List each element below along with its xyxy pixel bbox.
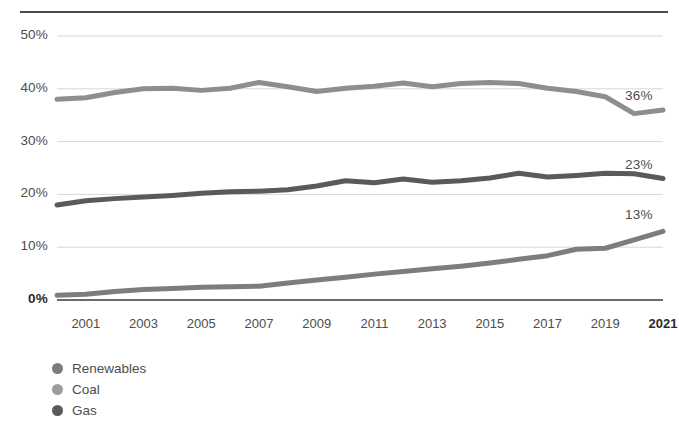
series-lines <box>57 82 663 295</box>
y-axis-tick-label: 10% <box>2 238 48 253</box>
x-axis-tick-label: 2021 <box>640 316 679 331</box>
y-axis-tick-label: 20% <box>2 185 48 200</box>
legend-item-renewables[interactable]: Renewables <box>52 358 146 379</box>
legend-item-gas[interactable]: Gas <box>52 400 146 421</box>
legend-item-label: Gas <box>72 403 97 418</box>
series-line-renewables <box>57 231 663 295</box>
x-axis-tick-label: 2019 <box>582 316 628 331</box>
legend-swatch-icon <box>52 405 63 416</box>
y-axis-tick-label: 0% <box>2 291 48 306</box>
x-axis-tick-label: 2007 <box>236 316 282 331</box>
x-axis-tick-label: 2005 <box>178 316 224 331</box>
gridlines <box>57 36 663 247</box>
legend-swatch-icon <box>52 384 63 395</box>
x-axis-tick-label: 2017 <box>525 316 571 331</box>
series-line-coal <box>57 82 663 113</box>
x-axis-tick-label: 2013 <box>409 316 455 331</box>
legend-swatch-icon <box>52 363 63 374</box>
end-value-label-renewables: 13% <box>625 207 653 222</box>
legend-item-label: Coal <box>72 382 100 397</box>
end-value-label-gas: 23% <box>625 157 653 172</box>
x-axis-tick-label: 2011 <box>351 316 397 331</box>
x-axis-tick-label: 2015 <box>467 316 513 331</box>
series-line-gas <box>57 173 663 205</box>
y-axis-tick-label: 30% <box>2 133 48 148</box>
chart-legend: RenewablesCoalGas <box>52 358 146 421</box>
legend-item-label: Renewables <box>72 361 146 376</box>
line-chart: 50%40%30%20%10%0% 2001200320052007200920… <box>0 0 679 437</box>
x-axis-tick-label: 2001 <box>63 316 109 331</box>
end-value-label-coal: 36% <box>625 88 653 103</box>
y-axis-tick-label: 40% <box>2 80 48 95</box>
y-axis-tick-label: 50% <box>2 27 48 42</box>
legend-item-coal[interactable]: Coal <box>52 379 146 400</box>
x-axis-tick-label: 2009 <box>294 316 340 331</box>
x-axis-tick-label: 2003 <box>121 316 167 331</box>
